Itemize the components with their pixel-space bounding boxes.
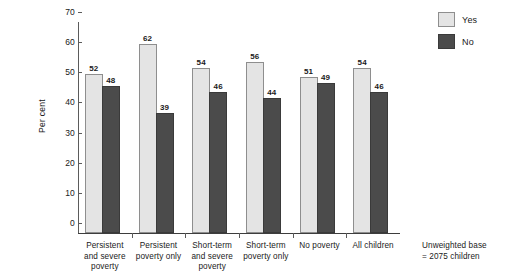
bar-value-label: 44	[267, 88, 276, 97]
bar-yes: 56	[246, 62, 264, 233]
bar-yes: 54	[192, 68, 210, 233]
bar-group: 5248	[85, 22, 119, 233]
bar-group: 5644	[246, 22, 280, 233]
unweighted-base-line-2: = 2075 children	[422, 251, 487, 262]
y-axis-tick-label: 50	[65, 67, 78, 77]
x-axis-category-label: Short-termand severepoverty	[185, 241, 239, 273]
x-axis-separator	[239, 233, 240, 238]
y-axis-title: Per cent	[37, 99, 47, 133]
bar-yes: 54	[353, 68, 371, 233]
y-axis-tick: 70	[65, 7, 78, 17]
bar-no: 48	[102, 86, 120, 233]
x-axis-category-label-line: poverty	[185, 262, 239, 273]
x-axis-separator	[185, 233, 186, 238]
x-axis-category-label: Short-termpoverty only	[239, 241, 293, 262]
x-axis-category-label-line: and severe	[78, 252, 132, 263]
y-axis-tick: 60	[65, 37, 78, 47]
bar-value-label: 49	[321, 73, 330, 82]
bar-yes: 51	[300, 77, 318, 233]
x-axis-category-label: Persistentpoverty only	[132, 241, 186, 262]
y-axis-tick: 50	[65, 67, 78, 77]
x-axis-category-label-line: All children	[346, 241, 400, 252]
x-axis-category-label-line: poverty only	[239, 252, 293, 263]
x-axis-category-label-line: Persistent	[132, 241, 186, 252]
bar-value-label: 48	[106, 76, 115, 85]
unweighted-base-note: Unweighted base = 2075 children	[422, 240, 487, 262]
y-axis-tick-label: 10	[65, 188, 78, 198]
y-axis-tick-label: 20	[65, 158, 78, 168]
bar-value-label: 46	[214, 82, 223, 91]
y-axis-tick-label: 70	[65, 7, 78, 17]
legend-swatch-yes-icon	[438, 12, 455, 27]
bar-value-label: 46	[375, 82, 384, 91]
bar-group: 6239	[139, 22, 173, 233]
y-axis-tick: 20	[65, 158, 78, 168]
legend: Yes No	[438, 12, 477, 56]
legend-label-yes: Yes	[462, 15, 477, 25]
bar-value-label: 39	[160, 103, 169, 112]
bar-value-label: 56	[250, 52, 259, 61]
bar-no: 39	[156, 113, 174, 233]
bar-no: 49	[317, 83, 335, 233]
x-axis-category-label-line: Short-term	[185, 241, 239, 252]
bar-value-label: 62	[143, 34, 152, 43]
plot-area: 010203040506070524862395446564451495446	[78, 22, 400, 233]
y-axis-tick-mark	[78, 12, 82, 13]
y-axis-tick: 40	[65, 97, 78, 107]
y-axis-tick-mark	[78, 133, 82, 134]
bar-group: 5446	[192, 22, 226, 233]
x-axis-category-label-line: Short-term	[239, 241, 293, 252]
x-axis-category-label: Persistentand severepoverty	[78, 241, 132, 273]
y-axis-tick: 10	[65, 188, 78, 198]
bar-group: 5149	[300, 22, 334, 233]
bar-no: 44	[263, 98, 281, 233]
x-axis-category-label-line: poverty only	[132, 252, 186, 263]
x-axis-separator	[346, 233, 347, 238]
legend-item-yes: Yes	[438, 12, 477, 27]
y-axis-tick-mark	[78, 72, 82, 73]
x-axis-separator	[293, 233, 294, 238]
bar-group: 5446	[353, 22, 387, 233]
bar-chart: Per cent 0102030405060705248623954465644…	[0, 0, 512, 278]
y-axis-tick-mark	[78, 102, 82, 103]
x-axis-category-label-line: poverty	[78, 262, 132, 273]
x-axis-category-label-line: Persistent	[78, 241, 132, 252]
y-axis-tick-mark	[78, 163, 82, 164]
bar-no: 46	[370, 92, 388, 233]
legend-item-no: No	[438, 34, 477, 49]
y-axis-tick-label: 0	[70, 218, 78, 228]
y-axis-tick: 0	[70, 218, 78, 228]
x-axis-category-label-line: and severe	[185, 252, 239, 263]
y-axis-tick: 30	[65, 128, 78, 138]
bar-value-label: 54	[358, 58, 367, 67]
legend-swatch-no-icon	[438, 34, 455, 49]
bar-yes: 52	[85, 74, 103, 233]
bar-value-label: 54	[197, 58, 206, 67]
x-axis-category-label: All children	[346, 241, 400, 252]
x-axis-category-label: No poverty	[293, 241, 347, 252]
unweighted-base-line-1: Unweighted base	[422, 240, 487, 251]
bar-value-label: 52	[89, 64, 98, 73]
y-axis-tick-mark	[78, 223, 82, 224]
bar-no: 46	[209, 92, 227, 233]
bar-value-label: 51	[304, 67, 313, 76]
x-axis-category-label-line: No poverty	[293, 241, 347, 252]
y-axis-tick-mark	[78, 42, 82, 43]
x-axis-separator	[132, 233, 133, 238]
y-axis-tick-label: 30	[65, 128, 78, 138]
bar-yes: 62	[139, 44, 157, 233]
legend-label-no: No	[462, 37, 474, 47]
y-axis-tick-mark	[78, 193, 82, 194]
y-axis-tick-label: 40	[65, 97, 78, 107]
y-axis-tick-label: 60	[65, 37, 78, 47]
